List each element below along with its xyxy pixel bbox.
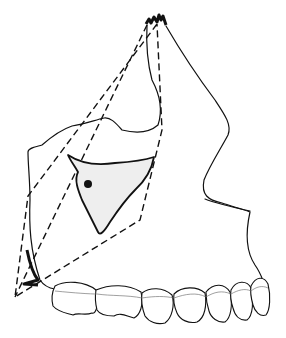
tooth-premolar-2 [174, 288, 206, 323]
maxilla-outline [28, 25, 160, 289]
maxilla-figure [0, 0, 286, 338]
tooth-premolar-1 [206, 285, 231, 322]
tooth-canine [231, 282, 253, 320]
maxilla-right-outline [166, 26, 264, 283]
tooth-molar-2 [95, 286, 142, 318]
tooth-incisor-lateral [251, 278, 270, 315]
shaded-sinus-region [68, 155, 154, 234]
dentition [52, 278, 270, 323]
tooth-molar-3 [52, 282, 97, 315]
tooth-molar-1 [142, 289, 174, 324]
serrated-apex [146, 15, 166, 25]
dot-marker [84, 180, 92, 188]
